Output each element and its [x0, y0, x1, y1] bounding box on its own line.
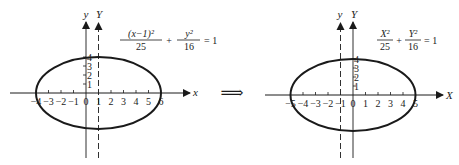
- left-x-tick-label: −1: [68, 96, 79, 107]
- right-equation: X² 25 + Y² 16 = 1: [377, 28, 437, 52]
- left-y-tick-label: 4: [87, 52, 92, 63]
- right-X-axis-label: X: [445, 89, 454, 101]
- right-y-axis-label: y: [337, 8, 343, 20]
- right-x-tick-label: −2: [323, 98, 334, 109]
- ellipse-translation-diagram: −4 −3 −2 −1 0 1 2 3 4 5 6 1 2 3 4 y Y x …: [0, 0, 459, 165]
- right-x-tick-label: 1: [363, 98, 368, 109]
- left-eq-numerator-1: (x−1)²: [128, 28, 155, 40]
- left-x-tick-label: −4: [31, 96, 42, 107]
- left-x-tick-label: 0: [84, 96, 89, 107]
- implies-arrow: ⟹: [221, 84, 244, 101]
- right-x-tick-label: 3: [388, 98, 393, 109]
- right-eq-plus: +: [396, 35, 402, 46]
- left-eq-denominator-1: 25: [136, 41, 146, 52]
- right-graph: −5 −4 −3 −2 −1 0 1 2 3 4 5 1 2 3 4 y Y X…: [265, 8, 454, 158]
- left-eq-numerator-2: y²: [184, 28, 193, 39]
- right-eq-denominator-1: 25: [380, 41, 390, 52]
- left-x-tick-label: 1: [96, 96, 101, 107]
- right-x-tick-label: 5: [413, 98, 418, 109]
- left-equation: (x−1)² 25 + y² 16 = 1: [120, 28, 217, 52]
- right-x-tick-label: −5: [285, 98, 296, 109]
- left-eq-denominator-2: 16: [184, 41, 194, 52]
- left-Y-axis-arrowhead: [95, 22, 103, 30]
- right-y-tick-label: 4: [354, 54, 359, 65]
- right-eq-numerator-2: Y²: [409, 28, 419, 39]
- right-x-tick-label: 2: [376, 98, 381, 109]
- right-x-tick-label: −3: [310, 98, 321, 109]
- left-Y-axis-label: Y: [96, 8, 104, 20]
- left-eq-rhs: = 1: [204, 35, 217, 46]
- right-eq-rhs: = 1: [424, 35, 437, 46]
- left-x-tick-label: −2: [56, 96, 67, 107]
- left-eq-plus: +: [166, 35, 172, 46]
- right-x-tick-label: −4: [298, 98, 309, 109]
- right-x-tick-label: 0: [351, 98, 356, 109]
- left-x-tick-label: −3: [43, 96, 54, 107]
- left-x-tick-label: 2: [109, 96, 114, 107]
- right-x-tick-label: −1: [335, 98, 346, 109]
- right-y-axis-arrowhead: [337, 22, 345, 30]
- left-graph: −4 −3 −2 −1 0 1 2 3 4 5 6 1 2 3 4 y Y x …: [10, 8, 217, 158]
- left-x-axis-label: x: [192, 86, 198, 98]
- left-x-tick-label: 3: [121, 96, 126, 107]
- left-x-tick-label: 6: [159, 96, 164, 107]
- left-x-tick-label: 5: [146, 96, 151, 107]
- left-y-axis-label: y: [83, 8, 89, 20]
- right-eq-denominator-2: 16: [408, 41, 418, 52]
- right-x-tick-label: 4: [401, 98, 406, 109]
- right-Y-axis-label: Y: [351, 8, 359, 20]
- left-x-tick-label: 4: [134, 96, 139, 107]
- right-eq-numerator-1: X²: [379, 28, 390, 39]
